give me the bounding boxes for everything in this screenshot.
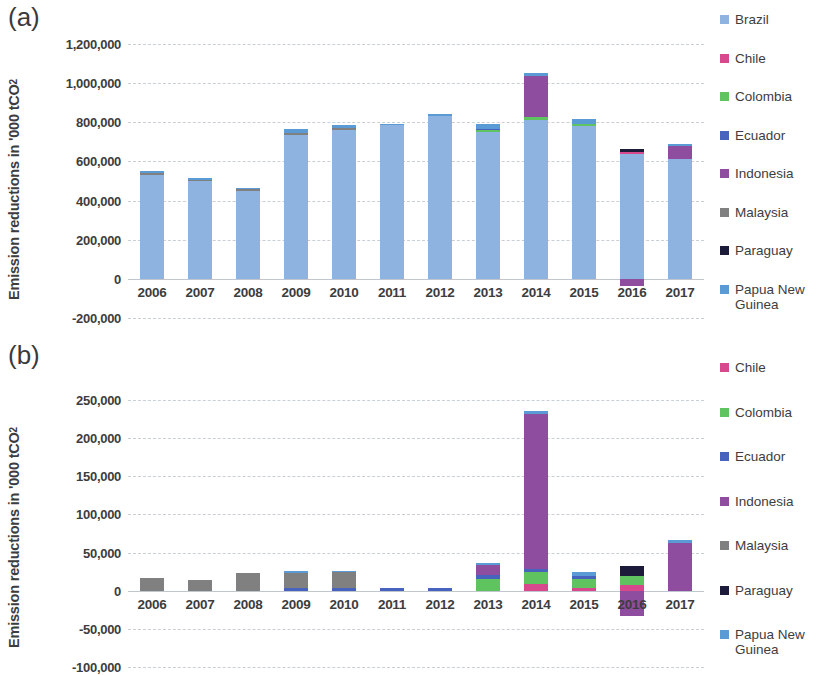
bar-segment-papua-new-guinea xyxy=(332,125,357,128)
legend-item-ecuador[interactable]: Ecuador xyxy=(720,449,785,464)
y-axis-tick-label: 100,000 xyxy=(76,507,121,522)
chart-panel-a: (a) Emission reductions in '000 tCO2 1,2… xyxy=(0,0,837,340)
legend-swatch-icon xyxy=(720,363,729,372)
bar-segment-papua-new-guinea xyxy=(188,178,213,180)
bar-segment-papua-new-guinea xyxy=(284,129,309,132)
x-axis-tick-label: 2007 xyxy=(186,597,215,612)
bar-segment-paraguay xyxy=(620,566,645,576)
bar-stack[interactable] xyxy=(284,44,309,318)
bar-segment-ecuador xyxy=(476,575,501,578)
bar-stack[interactable] xyxy=(524,44,549,318)
bar-stack[interactable] xyxy=(476,400,501,667)
bar-segment-brazil xyxy=(524,120,549,279)
legend-swatch-icon xyxy=(720,497,729,506)
bar-stack[interactable] xyxy=(620,44,645,318)
y-axis-tick-label: 50,000 xyxy=(83,545,121,560)
x-axis-tick-label: 2015 xyxy=(570,597,599,612)
bar-stack[interactable] xyxy=(476,44,501,318)
bar-stack[interactable] xyxy=(284,400,309,667)
bar-segment-malaysia xyxy=(332,128,357,130)
panel-a-label: (a) xyxy=(8,2,40,33)
y-axis-tick-label: 1,000,000 xyxy=(66,76,121,91)
legend-swatch-icon xyxy=(720,131,729,140)
bar-segment-brazil xyxy=(284,135,309,279)
legend-item-indonesia[interactable]: Indonesia xyxy=(720,166,794,181)
bar-stack[interactable] xyxy=(572,44,597,318)
gridline xyxy=(128,629,704,630)
x-axis-tick-label: 2007 xyxy=(186,285,215,300)
legend-item-paraguay[interactable]: Paraguay xyxy=(720,583,793,598)
legend-item-chile[interactable]: Chile xyxy=(720,360,766,375)
bar-stack[interactable] xyxy=(620,400,645,667)
bar-segment-indonesia xyxy=(668,145,693,159)
legend-swatch-icon xyxy=(720,630,729,639)
x-axis-tick-label: 2008 xyxy=(234,285,263,300)
legend-label: Paraguay xyxy=(735,583,793,598)
y-axis-tick-label: 150,000 xyxy=(76,469,121,484)
x-axis-tick-label: 2017 xyxy=(666,285,695,300)
x-axis-tick-label: 2006 xyxy=(138,285,167,300)
bar-segment-ecuador xyxy=(428,588,453,591)
bar-segment-papua-new-guinea xyxy=(332,571,357,573)
bar-segment-papua-new-guinea xyxy=(476,563,501,565)
bar-segment-ecuador xyxy=(332,588,357,591)
bar-stack[interactable] xyxy=(668,44,693,318)
legend-label: Ecuador xyxy=(735,128,785,143)
legend-item-brazil[interactable]: Brazil xyxy=(720,12,769,27)
bar-stack[interactable] xyxy=(140,44,165,318)
bar-segment-papua-new-guinea xyxy=(524,73,549,77)
panel-b-plot-area: 250,000200,000150,000100,00050,0000-50,0… xyxy=(128,400,704,667)
bar-stack[interactable] xyxy=(380,400,405,667)
legend-item-chile[interactable]: Chile xyxy=(720,51,766,66)
y-axis-tick-label: -100,000 xyxy=(72,660,121,675)
gridline xyxy=(128,161,704,162)
x-axis-tick-label: 2013 xyxy=(474,285,503,300)
bar-segment-indonesia xyxy=(668,543,693,591)
panel-a-plot-area: 1,200,0001,000,000800,000600,000400,0002… xyxy=(128,44,704,318)
bar-segment-brazil xyxy=(236,191,261,279)
bar-stack[interactable] xyxy=(380,44,405,318)
legend-item-papua-new-guinea[interactable]: Papua New Guinea xyxy=(720,627,833,657)
legend-swatch-icon xyxy=(720,169,729,178)
gridline xyxy=(128,201,704,202)
x-axis-tick-label: 2011 xyxy=(378,597,406,612)
legend-label: Malaysia xyxy=(735,538,788,553)
legend-item-colombia[interactable]: Colombia xyxy=(720,405,792,420)
bar-stack[interactable] xyxy=(668,400,693,667)
zero-axis-line xyxy=(128,279,704,280)
legend-swatch-icon xyxy=(720,15,729,24)
legend-item-papua-new-guinea[interactable]: Papua New Guinea xyxy=(720,282,833,312)
x-axis-tick-label: 2008 xyxy=(234,597,263,612)
bar-stack[interactable] xyxy=(188,44,213,318)
bar-stack[interactable] xyxy=(428,400,453,667)
bar-stack[interactable] xyxy=(236,44,261,318)
bar-segment-ecuador xyxy=(572,576,597,578)
legend-item-malaysia[interactable]: Malaysia xyxy=(720,538,788,553)
bar-stack[interactable] xyxy=(524,400,549,667)
bar-stack[interactable] xyxy=(572,400,597,667)
legend-item-malaysia[interactable]: Malaysia xyxy=(720,205,788,220)
x-axis-tick-label: 2009 xyxy=(282,597,311,612)
legend-label: Chile xyxy=(735,51,766,66)
legend-item-ecuador[interactable]: Ecuador xyxy=(720,128,785,143)
bar-segment-chile xyxy=(620,152,645,154)
legend-label: Chile xyxy=(735,360,766,375)
bar-segment-colombia xyxy=(524,572,549,584)
bar-stack[interactable] xyxy=(332,44,357,318)
bar-stack[interactable] xyxy=(236,400,261,667)
gridline xyxy=(128,318,704,319)
legend-item-paraguay[interactable]: Paraguay xyxy=(720,243,793,258)
y-axis-tick-label: 0 xyxy=(114,271,121,286)
bar-segment-brazil xyxy=(188,181,213,279)
bar-segment-brazil xyxy=(476,132,501,279)
bar-segment-malaysia xyxy=(140,173,165,175)
legend-label: Indonesia xyxy=(735,494,794,509)
legend-item-indonesia[interactable]: Indonesia xyxy=(720,494,794,509)
x-axis-tick-label: 2010 xyxy=(330,597,359,612)
bar-stack[interactable] xyxy=(428,44,453,318)
bar-stack[interactable] xyxy=(188,400,213,667)
bar-segment-papua-new-guinea xyxy=(236,188,261,190)
bar-stack[interactable] xyxy=(140,400,165,667)
bar-stack[interactable] xyxy=(332,400,357,667)
legend-item-colombia[interactable]: Colombia xyxy=(720,89,792,104)
